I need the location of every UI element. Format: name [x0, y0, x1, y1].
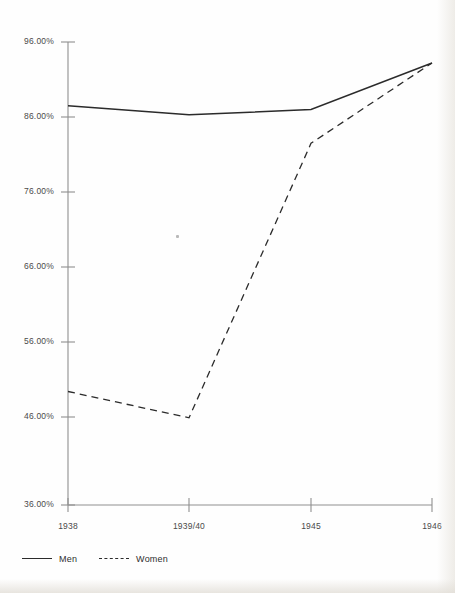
series-line-women — [68, 63, 432, 418]
y-tick-label: 86.00% — [6, 111, 54, 121]
legend-label-women: Women — [136, 554, 168, 564]
y-tick-label: 36.00% — [6, 499, 54, 509]
legend-dashed-line-icon — [99, 558, 129, 561]
legend-solid-line-icon — [22, 558, 52, 561]
chart-legend: Men Women — [22, 550, 168, 568]
y-tick-label: 46.00% — [6, 411, 54, 421]
legend-label-men: Men — [59, 554, 77, 564]
y-tick-label: 76.00% — [6, 186, 54, 196]
scan-artifact-speck — [176, 235, 179, 238]
plot-area — [0, 0, 455, 593]
x-tick-label: 1946 — [402, 521, 455, 531]
legend-item-women: Women — [99, 554, 168, 564]
y-tick-label: 66.00% — [6, 261, 54, 271]
legend-item-men: Men — [22, 554, 77, 564]
y-tick-label: 96.00% — [6, 36, 54, 46]
x-tick-label: 1938 — [38, 521, 98, 531]
chart-figure: 96.00% 86.00% 76.00% 66.00% 56.00% 46.00… — [0, 0, 455, 593]
series-line-men — [68, 63, 432, 115]
x-tick-label: 1939/40 — [159, 521, 219, 531]
x-tick-label: 1945 — [281, 521, 341, 531]
y-tick-label: 56.00% — [6, 336, 54, 346]
